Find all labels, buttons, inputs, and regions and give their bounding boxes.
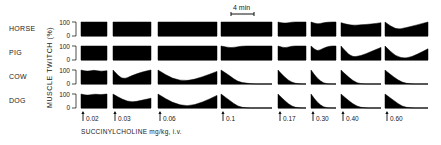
trace-horse-0.40 xyxy=(341,23,381,36)
dose-label: 0.60 xyxy=(390,115,403,122)
trace-horse-0.02 xyxy=(81,22,107,36)
dose-label: 0.40 xyxy=(346,115,359,122)
trace-dog-0.03 xyxy=(113,94,151,108)
y-axis-bracket xyxy=(72,46,76,60)
trace-cow-0.30 xyxy=(311,70,336,84)
trace-cow-0.03 xyxy=(113,70,151,84)
trace-pig-0.60 xyxy=(385,46,428,60)
y-tick-0: 0 xyxy=(66,80,70,87)
trace-pig-0.02 xyxy=(81,46,107,60)
trace-cow-0.1 xyxy=(221,70,272,84)
trace-cow-0.17 xyxy=(278,70,306,84)
y-tick-100: 100 xyxy=(59,91,70,98)
arrow-head-icon xyxy=(311,111,314,114)
trace-cow-0.60 xyxy=(385,70,428,84)
y-tick-0: 0 xyxy=(66,104,70,111)
y-axis-bracket xyxy=(72,22,76,36)
y-tick-0: 0 xyxy=(66,56,70,63)
y-axis-bracket xyxy=(72,70,76,84)
arrow-head-icon xyxy=(113,111,116,114)
dose-label: 0.03 xyxy=(118,115,131,122)
arrow-head-icon xyxy=(81,111,84,114)
trace-dog-0.40 xyxy=(341,94,381,108)
trace-pig-0.06 xyxy=(158,46,217,60)
trace-dog-0.1 xyxy=(221,94,272,108)
trace-horse-0.03 xyxy=(113,22,151,36)
trace-dog-0.60 xyxy=(385,94,428,108)
trace-dog-0.17 xyxy=(278,94,306,108)
trace-pig-0.03 xyxy=(113,46,151,60)
trace-cow-0.02 xyxy=(81,70,107,84)
scale-bar xyxy=(231,12,254,16)
dose-label: 0.17 xyxy=(283,115,296,122)
y-tick-100: 100 xyxy=(59,19,70,26)
arrow-head-icon xyxy=(278,111,281,114)
trace-horse-0.1 xyxy=(221,22,272,36)
dose-markers: 0.020.030.060.10.170.300.400.60 xyxy=(81,111,403,122)
dose-label: 0.1 xyxy=(226,115,235,122)
trace-pig-0.30 xyxy=(311,46,336,60)
y-tick-100: 100 xyxy=(59,43,70,50)
trace-panels xyxy=(81,22,428,108)
trace-horse-0.17 xyxy=(278,22,306,36)
arrow-head-icon xyxy=(158,111,161,114)
trace-cow-0.06 xyxy=(158,70,217,84)
arrow-head-icon xyxy=(341,111,344,114)
trace-dog-0.02 xyxy=(81,94,107,108)
trace-dog-0.06 xyxy=(158,94,217,108)
trace-dog-0.30 xyxy=(311,94,336,108)
y-tick-0: 0 xyxy=(66,32,70,39)
muscle-twitch-figure: 1000100010001000 0.020.030.060.10.170.30… xyxy=(0,0,441,145)
trace-pig-0.1 xyxy=(221,46,272,60)
y-axis-brackets: 1000100010001000 xyxy=(59,19,76,111)
trace-horse-0.60 xyxy=(385,22,428,36)
y-axis-bracket xyxy=(72,94,76,108)
trace-cow-0.40 xyxy=(341,70,381,84)
trace-pig-0.40 xyxy=(341,46,381,60)
trace-pig-0.17 xyxy=(278,46,306,60)
trace-horse-0.06 xyxy=(158,22,217,36)
dose-label: 0.02 xyxy=(86,115,99,122)
arrow-head-icon xyxy=(221,111,224,114)
arrow-head-icon xyxy=(385,111,388,114)
dose-label: 0.06 xyxy=(163,115,176,122)
trace-horse-0.30 xyxy=(311,22,336,36)
dose-label: 0.30 xyxy=(316,115,329,122)
y-tick-100: 100 xyxy=(59,67,70,74)
